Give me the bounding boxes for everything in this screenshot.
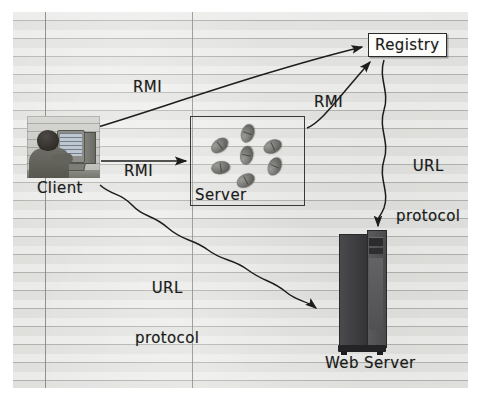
edge-label-client-to-server: RMI — [124, 163, 153, 180]
vertical-margin-rule — [45, 12, 46, 388]
server-label: Server — [195, 187, 247, 204]
tower-drive-bay-secondary — [369, 248, 383, 254]
registry-label: Registry — [375, 36, 440, 54]
tower-front-panel — [369, 258, 383, 330]
edge-label-line-2: protocol — [135, 330, 199, 347]
java-bean-icon — [238, 145, 254, 166]
edge-label-line-1: URL — [396, 158, 460, 175]
edge-label-server-to-registry: RMI — [314, 94, 343, 111]
edge-label-line-1: URL — [135, 280, 199, 297]
web-server-label: Web Server — [325, 355, 416, 372]
node-registry[interactable]: Registry — [368, 33, 447, 57]
node-client-photo[interactable] — [27, 116, 100, 178]
java-bean-icon — [208, 135, 231, 157]
java-bean-icon — [238, 122, 256, 144]
edge-label-line-2: protocol — [396, 208, 460, 225]
diagram-canvas: Registry Server Client Web Serve — [0, 0, 480, 398]
java-bean-icon — [261, 137, 284, 157]
node-server[interactable]: Server — [190, 116, 305, 206]
node-web-server-tower[interactable] — [339, 230, 386, 352]
edge-label-client-to-web-server: URL protocol — [135, 246, 199, 380]
photo-person-head — [37, 130, 59, 151]
tower-drive-bay — [369, 237, 383, 246]
client-label: Client — [37, 180, 83, 197]
java-bean-icon — [210, 160, 231, 176]
edge-label-registry-to-web-server: URL protocol — [396, 124, 460, 258]
java-bean-icon — [265, 155, 285, 178]
edge-label-client-to-registry: RMI — [133, 79, 162, 96]
tower-case-left — [339, 234, 370, 348]
